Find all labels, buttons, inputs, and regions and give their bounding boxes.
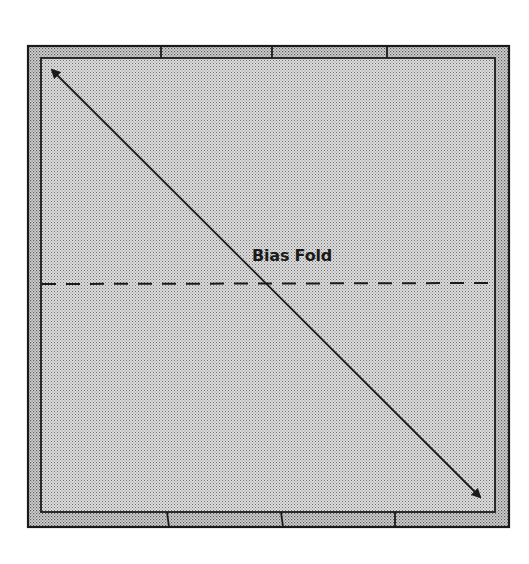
bias-fold-diagram: Bias Fold: [0, 0, 529, 564]
bias-fold-label: Bias Fold: [252, 246, 332, 265]
diagram-svg: [0, 0, 529, 564]
